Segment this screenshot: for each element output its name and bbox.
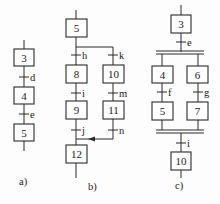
step-label: 5 bbox=[21, 127, 27, 139]
step-label: 9 bbox=[74, 104, 80, 116]
step-label: 4 bbox=[160, 69, 166, 81]
transition-label: f bbox=[168, 87, 172, 98]
step-label: 3 bbox=[21, 52, 27, 64]
sfc-diagram-figure: 3 d 4 e 5 a) 5 h k 8 10 i m 9 bbox=[0, 0, 220, 204]
transition-label: n bbox=[119, 125, 125, 136]
transition-label: g bbox=[204, 87, 210, 98]
step-label: 5 bbox=[74, 22, 80, 34]
transition-label: e bbox=[187, 37, 192, 48]
step-label: 7 bbox=[195, 105, 201, 117]
step-label: 11 bbox=[108, 104, 119, 116]
panel-a-single-sequence: 3 d 4 e 5 a) bbox=[14, 40, 36, 188]
transition-label: i bbox=[82, 88, 85, 99]
step-label: 4 bbox=[21, 90, 27, 102]
panel-caption: b) bbox=[88, 181, 97, 193]
step-label: 5 bbox=[160, 105, 166, 117]
step-label: 6 bbox=[195, 69, 201, 81]
transition-label: k bbox=[119, 50, 125, 61]
step-label: 3 bbox=[178, 18, 184, 30]
transition-label: e bbox=[30, 109, 35, 120]
step-label: 10 bbox=[108, 68, 120, 80]
transition-label: d bbox=[30, 72, 36, 83]
transition-label: h bbox=[82, 50, 88, 61]
panel-c-parallel-branch: 3 e 4 6 f g 5 7 i 10 c) bbox=[152, 5, 210, 192]
panel-caption: a) bbox=[19, 176, 28, 188]
arrow-left-icon bbox=[88, 137, 95, 142]
panel-b-alternative-branch: 5 h k 8 10 i m 9 11 j n 12 b) bbox=[66, 10, 127, 193]
step-label: 8 bbox=[74, 68, 80, 80]
step-label: 12 bbox=[71, 148, 82, 160]
step-label: 10 bbox=[176, 155, 188, 167]
transition-label: j bbox=[81, 125, 85, 136]
panel-caption: c) bbox=[175, 180, 184, 192]
diagram-canvas: 3 d 4 e 5 a) 5 h k 8 10 i m 9 bbox=[0, 0, 220, 204]
transition-label: m bbox=[119, 88, 127, 99]
transition-label: i bbox=[187, 138, 190, 149]
